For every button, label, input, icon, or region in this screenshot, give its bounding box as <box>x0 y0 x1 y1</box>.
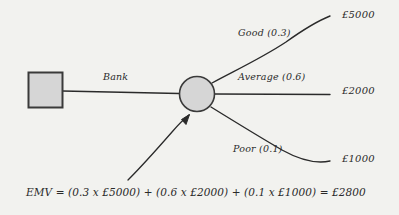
branch-label-poor: Poor (0.1) <box>233 144 283 154</box>
edge-branch-average <box>215 94 330 95</box>
decision-node-square <box>29 73 63 108</box>
branch-label-average: Average (0.6) <box>238 72 306 82</box>
payoff-label-average: £2000 <box>342 86 375 96</box>
tree-drawing-layer <box>0 0 399 215</box>
decision-tree-diagram: Bank Good (0.3) Average (0.6) Poor (0.1)… <box>0 0 399 215</box>
branch-label-good: Good (0.3) <box>238 28 291 38</box>
emv-formula-annotation: EMV = (0.3 x £5000) + (0.6 x £2000) + (0… <box>26 187 366 198</box>
payoff-label-good: £5000 <box>342 10 375 20</box>
payoff-label-poor: £1000 <box>342 154 375 164</box>
chance-node-circle <box>180 77 215 112</box>
edge-label-bank: Bank <box>103 72 128 82</box>
emv-pointer-arrow-head <box>182 115 190 125</box>
emv-pointer-arrow-shaft <box>128 115 189 180</box>
edge-root-bank <box>63 91 180 93</box>
